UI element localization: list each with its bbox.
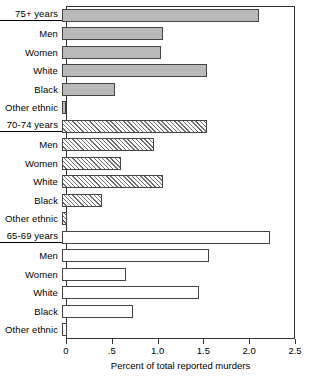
- bar: [62, 175, 163, 188]
- bar: [62, 101, 66, 114]
- category-label: White: [0, 287, 62, 298]
- group-label: 75+ years: [0, 8, 62, 21]
- bar-track: [62, 25, 291, 44]
- bar-row: Black: [0, 302, 319, 321]
- bar-row: White: [0, 62, 319, 81]
- x-tick: [295, 339, 296, 344]
- bar-track: [62, 265, 291, 284]
- bar: [62, 231, 270, 244]
- bar-row: 70-74 years: [0, 117, 319, 136]
- category-label: Black: [0, 195, 62, 206]
- bar-track: [62, 43, 291, 62]
- x-tick-label: 2.0: [243, 345, 256, 356]
- bar-row: White: [0, 173, 319, 192]
- bar-row: Men: [0, 247, 319, 266]
- bar-row: Women: [0, 265, 319, 284]
- x-axis-tick-labels: 0.51.01.52.02.5: [0, 345, 319, 357]
- bar-track: [62, 210, 291, 229]
- x-tick-label: .5: [108, 345, 116, 356]
- category-label: Women: [0, 47, 62, 58]
- bar-track: [62, 99, 291, 118]
- bar-track: [62, 191, 291, 210]
- category-label: Black: [0, 306, 62, 317]
- bar-rows: 75+ yearsMenWomenWhiteBlackOther ethnic7…: [0, 6, 319, 339]
- category-label: Men: [0, 139, 62, 150]
- x-tick-label: 0: [63, 345, 68, 356]
- bar-track: [62, 6, 291, 25]
- bar: [62, 9, 259, 22]
- category-label: Other ethnic: [0, 324, 62, 335]
- x-tick-label: 2.5: [288, 345, 301, 356]
- bar-row: 75+ years: [0, 6, 319, 25]
- bar: [62, 323, 67, 336]
- bar-track: [62, 302, 291, 321]
- bar: [62, 212, 67, 225]
- bar-track: [62, 173, 291, 192]
- bar-row: White: [0, 284, 319, 303]
- bar: [62, 268, 126, 281]
- group-label: 65-69 years: [0, 230, 62, 243]
- bar: [62, 83, 115, 96]
- bar-row: 65-69 years: [0, 228, 319, 247]
- bar: [62, 120, 207, 133]
- bar-row: Men: [0, 25, 319, 44]
- bar-row: Women: [0, 43, 319, 62]
- category-label: Other ethnic: [0, 102, 62, 113]
- x-tick: [112, 339, 113, 344]
- x-tick: [66, 339, 67, 344]
- category-label: Men: [0, 28, 62, 39]
- bar-row: Black: [0, 191, 319, 210]
- bar: [62, 305, 133, 318]
- bar: [62, 249, 209, 262]
- bar-row: Men: [0, 136, 319, 155]
- x-axis-title: Percent of total reported murders: [66, 360, 295, 371]
- bar-chart: 75+ yearsMenWomenWhiteBlackOther ethnic7…: [0, 0, 319, 381]
- bar-row: Other ethnic: [0, 99, 319, 118]
- bar: [62, 27, 163, 40]
- bar-track: [62, 284, 291, 303]
- x-tick: [249, 339, 250, 344]
- bar-track: [62, 154, 291, 173]
- category-label: White: [0, 65, 62, 76]
- bar-track: [62, 228, 291, 247]
- x-tick-label: 1.0: [151, 345, 164, 356]
- x-tick: [203, 339, 204, 344]
- bar-row: Other ethnic: [0, 210, 319, 229]
- category-label: Women: [0, 158, 62, 169]
- bar-track: [62, 247, 291, 266]
- bar: [62, 138, 154, 151]
- group-label: 70-74 years: [0, 119, 62, 132]
- category-label: Black: [0, 84, 62, 95]
- bar-track: [62, 117, 291, 136]
- bar: [62, 46, 161, 59]
- bar-track: [62, 80, 291, 99]
- bar: [62, 64, 207, 77]
- bar-track: [62, 136, 291, 155]
- bar-track: [62, 321, 291, 340]
- category-label: Other ethnic: [0, 213, 62, 224]
- bar: [62, 157, 121, 170]
- bar-row: Other ethnic: [0, 321, 319, 340]
- x-tick: [158, 339, 159, 344]
- bar-row: Black: [0, 80, 319, 99]
- bar-row: Women: [0, 154, 319, 173]
- category-label: White: [0, 176, 62, 187]
- x-tick-label: 1.5: [197, 345, 210, 356]
- bar-track: [62, 62, 291, 81]
- bar: [62, 194, 102, 207]
- category-label: Women: [0, 269, 62, 280]
- category-label: Men: [0, 250, 62, 261]
- x-axis-ticks: [66, 339, 295, 344]
- bar: [62, 286, 199, 299]
